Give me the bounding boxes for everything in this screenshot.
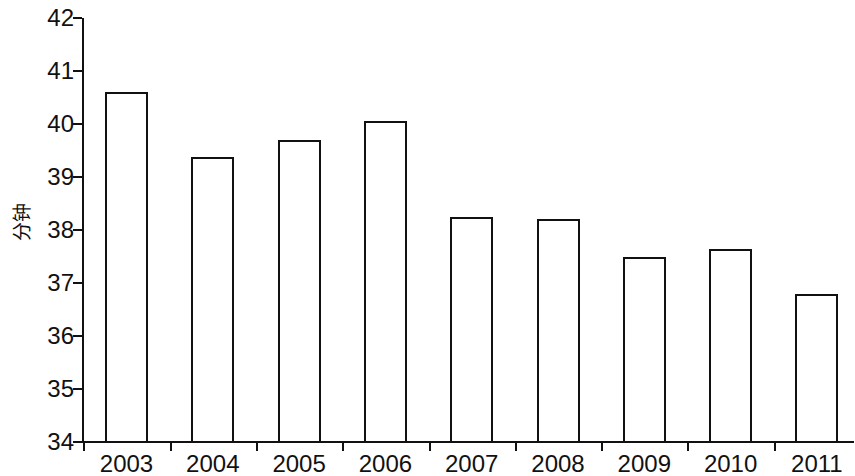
bar-chart: 分钟 343536373839404142 200320042005200620… xyxy=(0,0,855,476)
plot-area: 200320042005200620072008200920102011 xyxy=(0,0,855,476)
bar xyxy=(364,121,407,443)
x-axis-tick-mark xyxy=(429,443,431,451)
x-axis-tick-mark xyxy=(256,443,258,451)
y-axis-tick-mark xyxy=(73,17,82,19)
x-axis-tick-mark xyxy=(342,443,344,451)
x-axis-tick-mark xyxy=(170,443,172,451)
x-axis-tick-label: 2004 xyxy=(186,452,239,476)
y-axis-tick-mark xyxy=(73,388,82,390)
bar xyxy=(450,217,493,443)
x-axis-tick-label: 2011 xyxy=(791,452,843,476)
x-axis-tick-mark xyxy=(774,443,776,451)
bar xyxy=(709,249,752,443)
x-axis-tick-label: 2009 xyxy=(618,452,671,476)
bar xyxy=(278,140,321,443)
bar xyxy=(191,157,234,443)
y-axis-tick-mark xyxy=(73,282,82,284)
x-axis-tick-label: 2005 xyxy=(272,452,325,476)
y-axis-tick-mark xyxy=(73,229,82,231)
x-axis-tick-mark xyxy=(515,443,517,451)
x-axis-tick-label: 2006 xyxy=(359,452,412,476)
bar xyxy=(537,219,580,443)
x-axis-tick-label: 2003 xyxy=(100,452,153,476)
y-axis-tick-mark xyxy=(73,176,82,178)
x-axis-tick-mark xyxy=(687,443,689,451)
y-axis-line xyxy=(82,18,84,443)
y-axis-tick-mark xyxy=(73,441,82,443)
bar xyxy=(105,92,148,443)
y-axis-tick-mark xyxy=(73,335,82,337)
y-axis-tick-mark xyxy=(73,123,82,125)
bar xyxy=(623,257,666,444)
x-axis-tick-label: 2007 xyxy=(445,452,498,476)
x-axis-tick-label: 2008 xyxy=(531,452,584,476)
y-axis-tick-mark xyxy=(73,70,82,72)
x-axis-tick-mark xyxy=(601,443,603,451)
bar xyxy=(795,294,838,443)
x-axis-tick-label: 2010 xyxy=(704,452,757,476)
x-axis-tick-mark xyxy=(83,443,85,451)
